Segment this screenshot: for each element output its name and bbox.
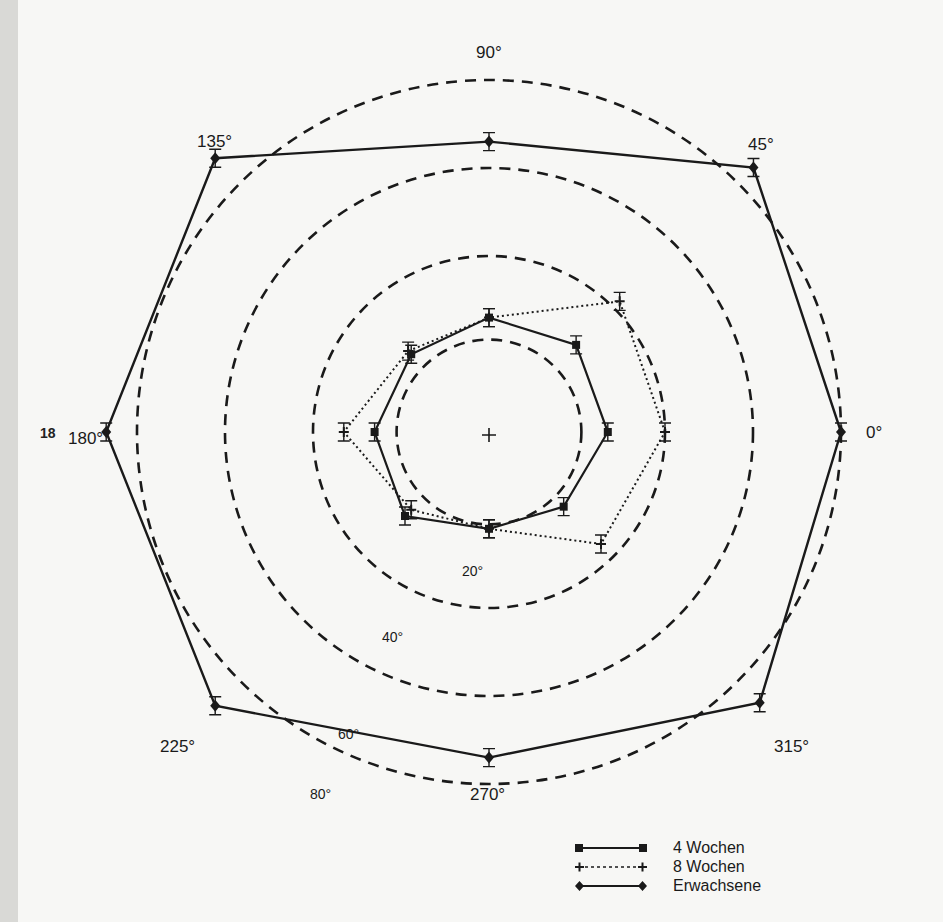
angle-label: 225°	[160, 737, 195, 756]
ring-label: 80°	[310, 786, 331, 802]
series-line-erwachsene	[106, 142, 841, 758]
angle-label: 180°	[68, 429, 103, 448]
solid-diamond-line-icon	[575, 880, 647, 892]
legend-item-8-wochen: 8 Wochen	[575, 857, 761, 876]
error-bar-icon	[570, 336, 582, 354]
angle-label: 135°	[197, 132, 232, 151]
angle-label: 90°	[476, 43, 502, 62]
angle-label: 45°	[748, 135, 774, 154]
center-cross-icon	[482, 428, 496, 442]
legend-label: Erwachsene	[673, 877, 761, 895]
legend-label: 8 Wochen	[673, 858, 745, 876]
dotted-plus-line-icon	[575, 861, 647, 873]
error-bar-icon	[369, 423, 381, 441]
ring-label: 60°	[338, 726, 359, 742]
series-line-4-wochen	[375, 318, 608, 529]
ring-label: 40°	[382, 629, 403, 645]
legend-item-4-wochen: 4 Wochen	[575, 838, 761, 857]
legend-label: 4 Wochen	[673, 839, 745, 857]
legend-item-erwachsene: Erwachsene	[575, 876, 761, 895]
angle-label: 0°	[866, 423, 882, 442]
ring-label: 20°	[462, 563, 483, 579]
series-line-8-wochen	[344, 301, 665, 544]
angle-label: 270°	[470, 785, 505, 804]
polar-visual-field-chart: 20°40°60°80°0°45°90°135°180°225°270°315°	[0, 0, 943, 922]
solid-square-line-icon	[575, 842, 647, 854]
chart-legend: 4 Wochen 8 Wochen Erwachsene	[575, 838, 761, 895]
angle-label: 315°	[774, 737, 809, 756]
